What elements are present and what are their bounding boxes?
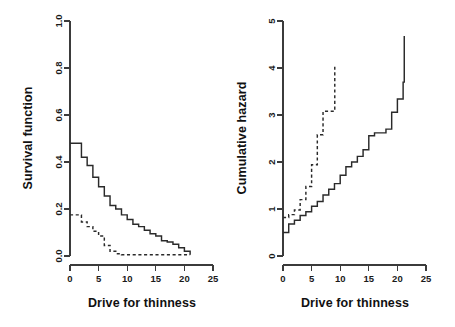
- x-ticklabel: 10: [122, 273, 133, 284]
- y-ticklabel: 0.8: [53, 61, 64, 74]
- survival-curve-dashed: [70, 215, 190, 255]
- y-ticklabel: 0.0: [53, 249, 64, 262]
- x-ticklabel: 25: [421, 273, 432, 284]
- x-ticklabel: 0: [67, 273, 72, 284]
- y-ticklabel: 0.4: [53, 155, 64, 169]
- y-ticklabel: 1.0: [53, 14, 64, 27]
- x-axis-group: 0 5 10 15 20 25: [67, 265, 219, 284]
- y-axis-group: 5 4 3 2 1 0: [266, 18, 284, 259]
- x-ticklabel: 5: [96, 273, 102, 284]
- x-ticklabel: 15: [151, 273, 162, 284]
- cumulative-hazard-plot: 5 4 3 2 1 0 0 5 10 15 20 25: [228, 0, 455, 327]
- y-ticklabel: 1: [266, 206, 277, 212]
- y-ticklabel: 3: [266, 112, 277, 117]
- y-ticklabel: 0.6: [53, 108, 64, 121]
- y-ticklabel: 0: [266, 253, 277, 258]
- y-axis-title: Survival function: [21, 86, 35, 189]
- x-ticklabel: 20: [179, 273, 190, 284]
- y-ticklabel: 2: [266, 159, 277, 164]
- x-ticklabel: 20: [392, 273, 403, 284]
- x-ticklabel: 10: [335, 273, 346, 284]
- x-axis-title: Drive for thinness: [88, 296, 196, 310]
- hazard-curve-solid: [283, 36, 404, 232]
- y-ticklabel: 0.2: [53, 202, 64, 215]
- x-ticklabel: 0: [280, 273, 285, 284]
- y-axis-title: Cumulative hazard: [235, 82, 249, 195]
- cumulative-hazard-panel: 5 4 3 2 1 0 0 5 10 15 20 25: [228, 0, 455, 327]
- survival-function-panel: 1.0 0.8 0.6 0.4 0.2 0.0 0 5 10 15 20: [0, 0, 227, 327]
- survival-curve-solid: [70, 143, 190, 255]
- y-ticklabel: 5: [266, 18, 277, 24]
- survival-analysis-figure: 1.0 0.8 0.6 0.4 0.2 0.0 0 5 10 15 20: [0, 0, 455, 327]
- y-ticklabel: 4: [266, 65, 277, 71]
- survival-function-plot: 1.0 0.8 0.6 0.4 0.2 0.0 0 5 10 15 20: [0, 0, 227, 327]
- x-ticklabel: 5: [309, 273, 315, 284]
- x-axis-group: 0 5 10 15 20 25: [280, 265, 432, 284]
- x-ticklabel: 25: [208, 273, 219, 284]
- x-ticklabel: 15: [364, 273, 375, 284]
- x-axis-title: Drive for thinness: [301, 296, 409, 310]
- y-axis-group: 1.0 0.8 0.6 0.4 0.2 0.0: [53, 14, 71, 262]
